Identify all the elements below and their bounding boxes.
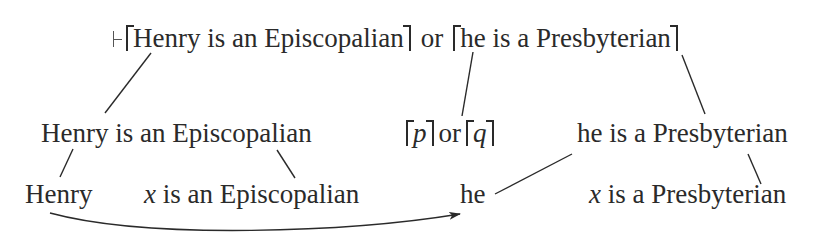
level3-pronoun-text: he [460, 179, 485, 209]
edge-left-predicate [277, 150, 295, 178]
edge-left-name [60, 149, 73, 177]
corner-quote-close-icon [427, 120, 436, 148]
level3-name-text: Henry [25, 179, 92, 209]
schema-q: q [473, 118, 487, 148]
level3-name: Henry [25, 179, 92, 209]
root-formula: Henry is an Episcopalianorhe is a Presby… [112, 23, 680, 53]
corner-quote-open-icon [404, 120, 413, 148]
edge-root-left [105, 53, 151, 113]
corner-quote-open-icon [124, 25, 133, 53]
left-predicate-variable: x [144, 179, 156, 209]
root-left-quote-text: Henry is an Episcopalian [133, 23, 404, 53]
level2-right-sentence-text: he is a Presbyterian [577, 118, 788, 148]
level2-left-sentence-text: Henry is an Episcopalian [41, 118, 312, 148]
corner-quote-close-icon [404, 25, 413, 53]
level3-right-predicate: x is a Presbyterian [589, 179, 786, 209]
corner-quote-open-icon [451, 25, 460, 53]
corner-quote-close-icon [487, 120, 496, 148]
schema-or: or [439, 118, 462, 148]
diagram-canvas: Henry is an Episcopalianorhe is a Presby… [0, 0, 834, 238]
level3-pronoun: he [460, 179, 485, 209]
edge-root-right [682, 55, 705, 114]
root-right-quote-text: he is a Presbyterian [460, 23, 671, 53]
turnstile-icon [112, 29, 124, 49]
corner-quote-open-icon [464, 120, 473, 148]
right-predicate-variable: x [589, 179, 601, 209]
right-predicate-text: is a Presbyterian [608, 179, 786, 209]
left-predicate-text: is an Episcopalian [163, 179, 359, 209]
root-connective: or [421, 23, 444, 53]
edge-right-pronoun [495, 154, 572, 194]
level2-schema: porq [404, 118, 496, 148]
corner-quote-close-icon [671, 25, 680, 53]
level3-left-predicate: x is an Episcopalian [144, 179, 359, 209]
level2-left-sentence: Henry is an Episcopalian [41, 118, 312, 148]
edge-root-connective [462, 52, 473, 116]
level2-right-sentence: he is a Presbyterian [577, 118, 788, 148]
anaphora-arrow [50, 213, 460, 230]
schema-p: p [413, 118, 427, 148]
